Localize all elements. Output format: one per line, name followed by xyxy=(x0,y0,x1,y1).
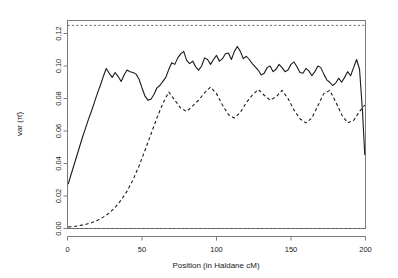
x-tick-label-3: 150 xyxy=(285,245,298,254)
y-tick-label-0: 0.00 xyxy=(54,221,63,236)
x-tick-label-4: 200 xyxy=(359,245,372,254)
x-tick-label-1: 50 xyxy=(138,245,146,254)
x-axis-title: Position (in Haldane cM) xyxy=(172,261,259,270)
x-tick-label-2: 100 xyxy=(210,245,223,254)
y-tick-label-6: 0.12 xyxy=(54,26,63,41)
y-tick-label-5: 0.10 xyxy=(54,59,63,74)
y-tick-label-3: 0.06 xyxy=(54,124,63,139)
y-tick-label-2: 0.04 xyxy=(54,156,63,171)
y-tick-label-4: 0.08 xyxy=(54,91,63,106)
chart-container: 0.000.020.040.060.080.100.12 05010015020… xyxy=(0,0,398,278)
y-axis-title: var (π̂) xyxy=(15,112,24,137)
chart-canvas: 0.000.020.040.060.080.100.12 05010015020… xyxy=(0,0,398,278)
y-tick-label-1: 0.02 xyxy=(54,189,63,204)
x-tick-label-0: 0 xyxy=(65,245,69,254)
